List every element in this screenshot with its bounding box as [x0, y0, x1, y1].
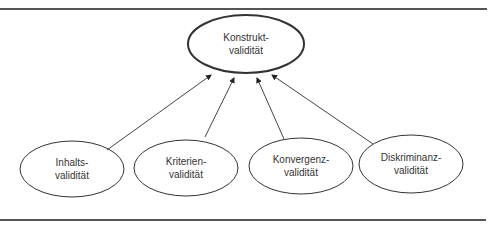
node-label-line1: Konvergenz-	[273, 153, 330, 166]
diagram-canvas: Konstrukt- validität Inhalts- validität …	[0, 0, 497, 225]
node-label-inhalts: Inhalts- validität	[55, 156, 89, 182]
node-label-line1: Kriterien-	[166, 155, 207, 168]
node-label-line1: Inhalts-	[55, 156, 89, 169]
node-label-line1: Diskriminanz-	[381, 151, 442, 164]
node-label-line2: validität	[273, 166, 330, 179]
node-label-diskriminanz: Diskriminanz- validität	[381, 151, 442, 177]
node-label-line2: validität	[381, 164, 442, 177]
node-label-konvergenz: Konvergenz- validität	[273, 153, 330, 179]
node-label-kriterien: Kriterien- validität	[166, 155, 207, 181]
node-label-line1: Konstrukt-	[223, 31, 269, 44]
arrow-kriterien-to-konstrukt	[205, 78, 234, 137]
node-label-line2: validität	[166, 168, 207, 181]
arrow-diskriminanz-to-konstrukt	[272, 75, 373, 144]
node-label-line2: validität	[223, 44, 269, 57]
node-label-konstrukt: Konstrukt- validität	[223, 31, 269, 57]
arrow-inhalts-to-konstrukt	[107, 75, 211, 150]
arrow-konvergenz-to-konstrukt	[257, 78, 284, 139]
edges-layer	[107, 75, 373, 150]
node-label-line2: validität	[55, 169, 89, 182]
